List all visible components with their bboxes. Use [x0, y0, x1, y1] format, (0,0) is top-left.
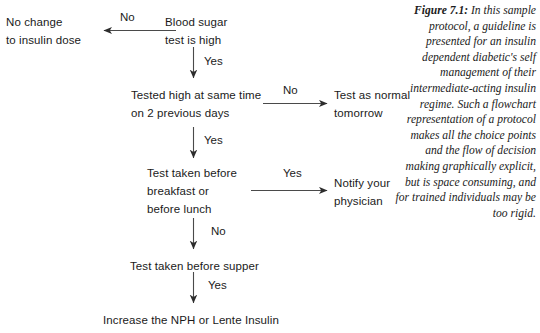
edge-label-before-supper-yes: Yes	[208, 279, 227, 292]
figure-caption: Figure 7.1: In this sample protocol, a g…	[392, 3, 536, 221]
edge-label-before-breakfast-yes: Yes	[283, 167, 302, 180]
edge-label-tested-high-no: No	[283, 84, 298, 97]
node-tested-high-same-time: Tested high at same time on 2 previous d…	[131, 86, 261, 122]
figure-caption-text: In this sample protocol, a guideline is …	[396, 4, 536, 220]
node-blood-sugar-test: Blood sugar test is high	[165, 13, 227, 49]
edge-label-before-breakfast-no: No	[211, 225, 226, 238]
node-no-change-insulin-dose: No change to insulin dose	[6, 13, 81, 49]
figure-page: Blood sugar test is high No change to in…	[0, 0, 540, 333]
node-notify-your-physician: Notify your physician	[334, 174, 390, 210]
node-test-taken-before-breakfast-lunch: Test taken before breakfast or before lu…	[147, 164, 237, 218]
node-test-taken-before-supper: Test taken before supper	[130, 257, 259, 275]
node-increase-nph-lente-insulin: Increase the NPH or Lente Insulin	[103, 311, 279, 329]
edge-label-tested-high-yes: Yes	[204, 134, 223, 147]
edge-label-blood-sugar-no: No	[120, 11, 135, 24]
edge-label-blood-sugar-yes: Yes	[204, 55, 223, 68]
figure-caption-label: Figure 7.1:	[414, 4, 468, 17]
